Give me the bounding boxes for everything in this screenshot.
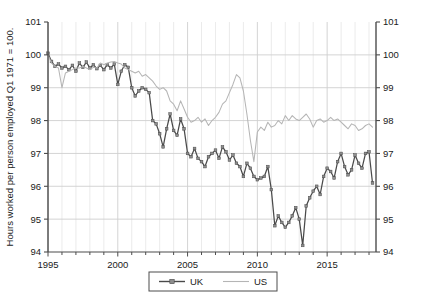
series-marker-uk [354, 154, 357, 157]
series-marker-uk [130, 86, 133, 89]
series-marker-uk [329, 170, 332, 173]
series-marker-uk [120, 70, 123, 73]
series-marker-uk [343, 165, 346, 168]
series-marker-uk [204, 165, 207, 168]
series-marker-uk [270, 188, 273, 191]
axis-ticks [44, 22, 380, 257]
series-marker-uk [214, 149, 217, 152]
series-marker-uk [246, 162, 249, 165]
y-tick-label-right: 101 [383, 16, 399, 27]
series-marker-uk [350, 169, 353, 172]
series-marker-uk [179, 118, 182, 121]
series-marker-uk [287, 221, 290, 224]
series-marker-uk [368, 150, 371, 153]
series-marker-uk [123, 63, 126, 66]
series-marker-uk [347, 173, 350, 176]
series-marker-uk [357, 162, 360, 165]
y-tick-label-left: 101 [25, 16, 41, 27]
series-marker-uk [228, 159, 231, 162]
chart-container: 9495969798991001019495969798991001011995… [0, 0, 425, 296]
series-marker-uk [71, 64, 74, 67]
series-marker-uk [291, 215, 294, 218]
series-marker-uk [322, 175, 325, 178]
series-marker-uk [277, 215, 280, 218]
legend-marker-uk [170, 279, 174, 283]
y-tick-label-left: 98 [30, 115, 41, 126]
series-marker-uk [253, 175, 256, 178]
y-tick-label-left: 94 [30, 246, 41, 257]
series-marker-uk [78, 62, 81, 65]
x-tick-label: 1995 [37, 259, 58, 270]
series-marker-uk [116, 83, 119, 86]
y-tick-label-right: 100 [383, 49, 399, 60]
y-tick-label-right: 99 [383, 82, 394, 93]
series-marker-uk [190, 155, 193, 158]
y-axis-title-text: Hours worked per person employed Q1 1971… [4, 28, 15, 247]
series-marker-uk [221, 146, 224, 149]
series-marker-uk [242, 175, 245, 178]
series-marker-uk [148, 91, 151, 94]
series-marker-uk [249, 167, 252, 170]
series-marker-uk [280, 221, 283, 224]
gridlines [48, 22, 376, 252]
x-tick-label: 2000 [107, 259, 128, 270]
series-marker-uk [263, 175, 266, 178]
series-marker-uk [144, 88, 147, 91]
series-marker-uk [319, 193, 322, 196]
chart-legend: UKUS [149, 272, 277, 291]
series-marker-uk [361, 167, 364, 170]
series-marker-uk [336, 160, 339, 163]
series-marker-uk [61, 67, 64, 70]
y-tick-label-right: 98 [383, 115, 394, 126]
series-marker-uk [273, 224, 276, 227]
series-marker-uk [193, 147, 196, 150]
series-lines [47, 52, 374, 247]
series-marker-uk [64, 65, 67, 68]
series-marker-uk [235, 162, 238, 165]
legend-label-us: US [254, 276, 267, 287]
series-marker-uk [211, 152, 214, 155]
y-axis-title: Hours worked per person employed Q1 1971… [4, 28, 15, 247]
series-marker-uk [200, 160, 203, 163]
series-marker-uk [284, 226, 287, 229]
y-tick-label-right: 95 [383, 214, 394, 225]
series-line-uk [48, 53, 373, 245]
legend-label-uk: UK [190, 276, 204, 287]
series-marker-uk [301, 244, 304, 247]
series-marker-uk [294, 206, 297, 209]
series-marker-uk [75, 70, 78, 73]
y-tick-label-right: 97 [383, 148, 394, 159]
series-marker-uk [218, 157, 221, 160]
series-marker-uk [158, 132, 161, 135]
series-marker-uk [266, 165, 269, 168]
series-marker-uk [109, 67, 112, 70]
x-tick-label: 2015 [317, 259, 338, 270]
series-marker-uk [137, 90, 140, 93]
series-marker-uk [113, 63, 116, 66]
series-marker-uk [155, 123, 158, 126]
series-marker-uk [232, 154, 235, 157]
series-marker-uk [162, 146, 165, 149]
series-marker-uk [225, 150, 228, 153]
series-marker-uk [141, 86, 144, 89]
series-marker-uk [256, 178, 259, 181]
series-marker-uk [169, 113, 172, 116]
series-marker-uk [127, 66, 130, 69]
series-marker-uk [364, 152, 367, 155]
series-marker-uk [176, 134, 179, 137]
series-marker-uk [183, 127, 186, 130]
series-marker-uk [371, 182, 374, 185]
series-marker-uk [57, 63, 60, 66]
y-tick-label-left: 100 [25, 49, 41, 60]
series-marker-uk [239, 165, 242, 168]
series-marker-uk [298, 218, 301, 221]
hours-worked-line-chart: 9495969798991001019495969798991001011995… [0, 0, 425, 296]
series-marker-uk [308, 196, 311, 199]
series-line-us [48, 55, 373, 162]
series-marker-uk [197, 157, 200, 160]
series-marker-uk [172, 129, 175, 132]
series-marker-uk [92, 63, 95, 66]
series-marker-uk [165, 127, 168, 130]
series-marker-uk [134, 95, 137, 98]
y-tick-label-left: 96 [30, 181, 41, 192]
